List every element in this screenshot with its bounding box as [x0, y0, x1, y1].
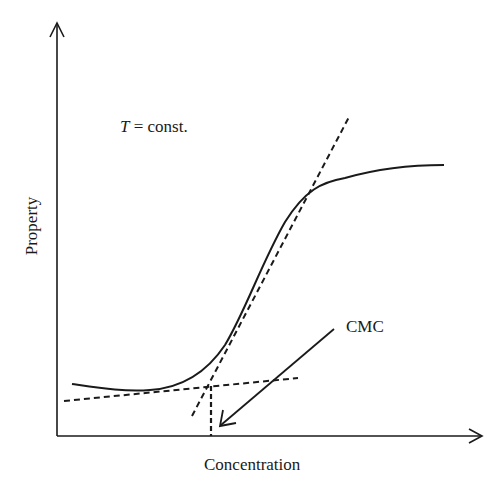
temperature-constant-label: T = const.	[120, 118, 188, 135]
diagram-canvas	[0, 0, 499, 498]
y-axis-label: Property	[23, 197, 40, 256]
x-axis-label: Concentration	[204, 456, 300, 473]
property-curve	[72, 165, 444, 391]
steep-tangent-dashed-line	[192, 117, 349, 416]
cmc-label: CMC	[346, 318, 384, 335]
temperature-constant-text: = const.	[129, 117, 187, 136]
cmc-arrow-line	[221, 329, 334, 425]
